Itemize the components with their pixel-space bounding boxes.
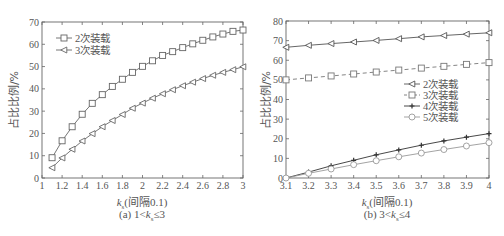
- series-4x-loading: [284, 131, 492, 180]
- data-point-marker: [69, 124, 75, 130]
- legend-label: 3次装载: [423, 89, 459, 101]
- data-point-marker: [180, 45, 186, 51]
- data-point-marker: [230, 28, 236, 34]
- data-point-marker: [220, 31, 226, 37]
- chart-b-xlabel-suffix: (间隔0.1): [369, 196, 412, 208]
- data-point-marker: [328, 166, 334, 172]
- data-point-marker: [373, 69, 379, 75]
- y-tick-label: 30: [273, 114, 283, 125]
- x-tick-label: 3.2: [302, 180, 315, 191]
- chart-a-caption-suffix: ≤3: [153, 208, 165, 220]
- data-point-marker: [160, 52, 166, 58]
- y-tick-label: 10: [29, 150, 39, 161]
- chart-a-caption: (a) 1<ks≤3: [92, 208, 192, 223]
- y-tick-label: 10: [273, 153, 283, 164]
- legend-item: 3次装载: [404, 89, 459, 101]
- data-point-marker: [306, 170, 312, 176]
- data-point-marker: [441, 138, 446, 143]
- data-point-marker: [419, 143, 424, 148]
- x-tick-label: 3.3: [325, 180, 338, 191]
- series-5x-loading: [283, 140, 492, 181]
- data-point-marker: [328, 73, 334, 79]
- legend-item: 2次装载: [404, 78, 459, 90]
- data-point-marker: [109, 83, 115, 89]
- legend-marker-icon: [409, 114, 415, 120]
- data-point-marker: [190, 79, 196, 85]
- data-point-marker: [418, 150, 424, 156]
- chart-b-ylabel: 占比比例/%: [257, 65, 273, 135]
- x-tick-label: 1.6: [96, 180, 109, 191]
- data-point-marker: [441, 63, 447, 69]
- legend-item: 5次装载: [404, 111, 459, 123]
- y-tick-label: 80: [273, 16, 283, 27]
- x-tick-label: 1.2: [56, 180, 69, 191]
- x-tick-label: 2.6: [197, 180, 210, 191]
- data-point-marker: [129, 105, 135, 111]
- x-tick-label: 3.5: [370, 180, 383, 191]
- data-point-marker: [49, 165, 55, 171]
- data-point-marker: [464, 135, 469, 140]
- legend-marker-icon: [409, 81, 415, 87]
- data-point-marker: [159, 91, 165, 97]
- data-point-marker: [200, 37, 206, 43]
- data-point-marker: [350, 39, 356, 45]
- x-tick-label: 3.8: [438, 180, 451, 191]
- data-point-marker: [99, 92, 105, 98]
- chart-a-caption-prefix: (a) 1<: [119, 208, 146, 220]
- data-point-marker: [170, 49, 176, 55]
- x-tick-label: 2.8: [217, 180, 230, 191]
- data-point-marker: [396, 67, 402, 73]
- data-point-marker: [486, 60, 492, 66]
- x-tick-label: 3.9: [460, 180, 473, 191]
- series-3x-loading: [283, 60, 492, 83]
- data-point-marker: [374, 152, 379, 157]
- y-tick-label: 70: [29, 17, 39, 28]
- plot-frame: [42, 22, 243, 178]
- y-tick-label: 50: [273, 74, 283, 85]
- series-2x-loading: [283, 30, 492, 51]
- legend-label: 4次装载: [423, 100, 459, 112]
- data-point-marker: [441, 33, 447, 39]
- data-point-marker: [49, 155, 55, 161]
- data-point-marker: [283, 77, 289, 83]
- data-point-marker: [129, 69, 135, 75]
- data-point-marker: [109, 118, 115, 124]
- chart-a-ylabel: 占比比例/%: [5, 65, 21, 135]
- legend-label: 3次装载: [75, 44, 111, 56]
- data-point-marker: [169, 87, 175, 93]
- legend-marker-icon: [409, 92, 415, 98]
- y-tick-label: 40: [273, 94, 283, 105]
- data-point-marker: [140, 63, 146, 69]
- series-3x-loading: [49, 64, 246, 171]
- y-tick-label: 50: [29, 61, 39, 72]
- x-tick-label: 3.4: [347, 180, 360, 191]
- data-point-marker: [351, 71, 357, 77]
- data-point-marker: [441, 147, 447, 153]
- x-tick-label: 2.2: [156, 180, 169, 191]
- data-point-marker: [396, 154, 402, 160]
- data-point-marker: [463, 143, 469, 149]
- x-tick-label: 4: [487, 180, 492, 191]
- data-point-marker: [210, 34, 216, 40]
- legend-item: 2次装载: [56, 32, 111, 44]
- data-point-marker: [373, 158, 379, 164]
- data-point-marker: [373, 37, 379, 43]
- data-point-marker: [220, 69, 226, 75]
- legend-marker-icon: [61, 47, 67, 53]
- data-point-marker: [396, 147, 401, 152]
- data-point-marker: [240, 27, 246, 33]
- chart-b-caption-prefix: (b) 3<: [364, 208, 391, 220]
- y-tick-label: 60: [273, 55, 283, 66]
- data-point-marker: [59, 138, 65, 144]
- chart-a-xlabel-suffix: (间隔0.1): [124, 196, 167, 208]
- x-tick-label: 1.4: [76, 180, 89, 191]
- data-point-marker: [190, 41, 196, 47]
- data-point-marker: [463, 31, 469, 37]
- legend-marker-icon: [410, 104, 415, 109]
- data-point-marker: [305, 42, 311, 48]
- data-point-marker: [149, 95, 155, 101]
- data-point-marker: [119, 111, 125, 117]
- data-point-marker: [180, 83, 186, 89]
- y-tick-label: 0: [278, 173, 283, 184]
- data-point-marker: [230, 67, 236, 73]
